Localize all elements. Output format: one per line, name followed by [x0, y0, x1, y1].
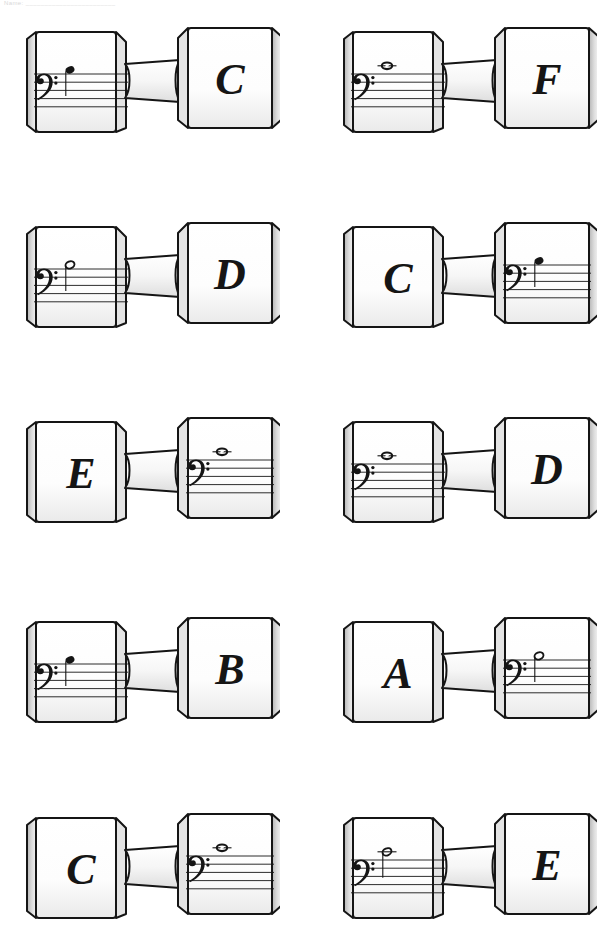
dumbbell-bar — [125, 450, 180, 492]
dumbbell-illustration: B — [20, 610, 280, 735]
right-weight-side — [589, 418, 597, 518]
dumbbell-bar — [442, 450, 497, 492]
left-weight-side — [344, 227, 353, 327]
note-letter: C — [215, 55, 245, 104]
right-weight-side — [589, 28, 597, 128]
note-letter: E — [531, 841, 561, 890]
right-weight-bevel — [495, 814, 505, 914]
dumbbell-bar — [125, 846, 180, 888]
note-letter: C — [383, 254, 413, 303]
dumbbell-grid: CFDCEDBACE — [0, 18, 599, 935]
dumbbell-illustration: C — [337, 215, 597, 340]
note-letter: A — [380, 649, 412, 698]
left-weight-bevel — [433, 622, 443, 722]
dumbbell-illustration: D — [20, 215, 280, 340]
dumbbell-illustration: C — [20, 806, 280, 931]
note-letter: D — [530, 445, 563, 494]
dumbbell-illustration: F — [337, 20, 597, 145]
dumbbell-item[interactable]: C — [337, 215, 597, 340]
left-weight-side — [344, 622, 353, 722]
bar-body — [442, 450, 497, 492]
left-weight-bevel — [433, 227, 443, 327]
note-letter: C — [66, 845, 96, 894]
bar-body — [442, 255, 497, 297]
dumbbell-item[interactable]: A — [337, 610, 597, 735]
dumbbell-item[interactable]: D — [337, 410, 597, 535]
bar-body — [125, 650, 180, 692]
bar-body — [125, 846, 180, 888]
dumbbell-item[interactable]: C — [20, 806, 280, 931]
note-letter: D — [213, 250, 246, 299]
dumbbell-bar — [442, 60, 497, 102]
right-weight-side — [272, 28, 280, 128]
left-weight-bevel — [116, 422, 126, 522]
dumbbell-illustration: E — [20, 410, 280, 535]
dumbbell-bar — [125, 60, 180, 102]
dumbbell-bar — [125, 650, 180, 692]
bar-body — [125, 450, 180, 492]
note-letter: E — [65, 449, 95, 498]
dumbbell-illustration: D — [337, 410, 597, 535]
dumbbell-bar — [442, 255, 497, 297]
dumbbell-illustration: C — [20, 20, 280, 145]
right-weight-bevel — [495, 28, 505, 128]
dumbbell-item[interactable]: E — [337, 806, 597, 931]
note-letter: B — [214, 645, 244, 694]
bar-body — [125, 255, 180, 297]
right-weight-bevel — [178, 223, 188, 323]
dumbbell-item[interactable]: E — [20, 410, 280, 535]
left-weight-side — [27, 818, 36, 918]
right-weight-side — [272, 223, 280, 323]
right-weight-bevel — [495, 418, 505, 518]
worksheet-page: Name: ________________________ CFDCEDBAC… — [0, 0, 599, 935]
note-letter: F — [531, 55, 561, 104]
right-weight-bevel — [178, 618, 188, 718]
right-weight-side — [272, 618, 280, 718]
dumbbell-item[interactable]: F — [337, 20, 597, 145]
dumbbell-illustration: A — [337, 610, 597, 735]
worksheet-header-text: Name: ________________________ — [4, 0, 115, 6]
dumbbell-item[interactable]: D — [20, 215, 280, 340]
dumbbell-bar — [442, 650, 497, 692]
bar-body — [442, 60, 497, 102]
bar-body — [442, 650, 497, 692]
dumbbell-illustration: E — [337, 806, 597, 931]
dumbbell-bar — [125, 255, 180, 297]
dumbbell-item[interactable]: C — [20, 20, 280, 145]
dumbbell-item[interactable]: B — [20, 610, 280, 735]
left-weight-bevel — [116, 818, 126, 918]
bar-body — [125, 60, 180, 102]
right-weight-bevel — [178, 28, 188, 128]
left-weight-side — [27, 422, 36, 522]
bar-body — [442, 846, 497, 888]
dumbbell-bar — [442, 846, 497, 888]
right-weight-side — [589, 814, 597, 914]
